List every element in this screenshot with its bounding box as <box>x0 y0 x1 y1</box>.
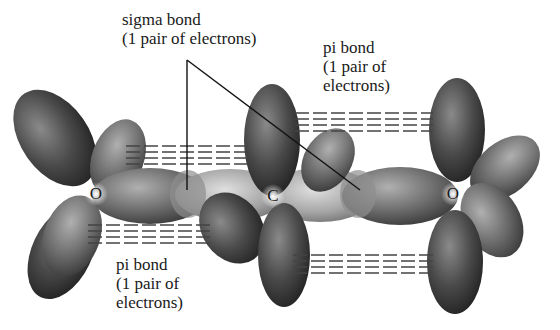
pi-bond-dashes-lower-left <box>88 225 210 243</box>
pi-bond-dashes-lower-right <box>293 255 433 273</box>
sigma-bond-subtitle: (1 pair of electrons) <box>122 29 257 48</box>
pi-bond-top-line2: (1 pair of <box>323 57 390 76</box>
atom-label-oxygen-right: O <box>447 184 459 204</box>
atom-label-oxygen-left: O <box>90 184 102 204</box>
orbital-illustration <box>0 0 560 330</box>
sigma-bond-label: sigma bond (1 pair of electrons) <box>122 10 257 48</box>
atom-label-carbon: C <box>267 186 278 206</box>
pi-bond-label-top: pi bond (1 pair of electrons) <box>323 38 390 95</box>
pi-bond-bottom-line2: (1 pair of <box>116 274 183 293</box>
co2-orbital-diagram: O C O sigma bond (1 pair of electrons) p… <box>0 0 560 330</box>
pi-bond-top-line3: electrons) <box>323 76 390 95</box>
pi-bond-dashes-upper-right <box>295 113 433 131</box>
pi-bond-top-title: pi bond <box>323 38 390 57</box>
pi-bond-bottom-line3: electrons) <box>116 293 183 312</box>
pi-bond-bottom-title: pi bond <box>116 255 183 274</box>
pi-bond-label-bottom: pi bond (1 pair of electrons) <box>116 255 183 312</box>
sigma-bond-title: sigma bond <box>122 10 257 29</box>
